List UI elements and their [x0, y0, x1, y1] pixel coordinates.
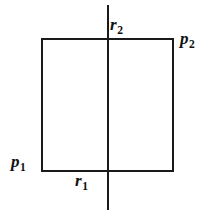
label-p2-base: p: [180, 29, 189, 48]
figure-container: r2 p2 p1 r1: [0, 0, 216, 216]
label-r2-base: r: [110, 15, 117, 34]
label-r2-subscript: 2: [117, 24, 123, 37]
label-r2: r2: [110, 16, 123, 36]
label-p1-base: p: [11, 152, 20, 171]
label-r1: r1: [75, 172, 88, 192]
label-r1-subscript: 1: [82, 180, 88, 193]
label-p1-subscript: 1: [20, 161, 26, 174]
label-p2: p2: [180, 30, 195, 50]
label-p2-subscript: 2: [189, 38, 195, 51]
label-p1: p1: [11, 153, 26, 173]
label-r1-base: r: [75, 171, 82, 190]
